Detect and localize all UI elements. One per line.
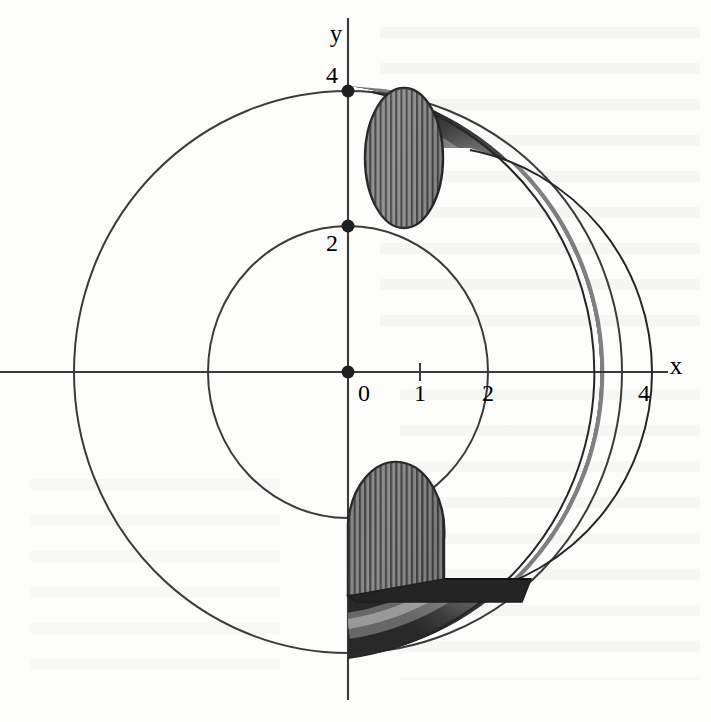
top-cross-section-shade <box>365 88 443 228</box>
x-tick-label-1: 1 <box>414 380 426 406</box>
x-axis-label: x <box>670 352 683 379</box>
axes-group <box>0 18 668 700</box>
x-tick-label-0: 0 <box>358 380 370 406</box>
point-y-4 <box>342 85 355 98</box>
diagram-canvas: x y 0 1 2 4 2 4 <box>0 0 711 722</box>
bottom-cross-section-shade <box>348 462 444 596</box>
x-tick-label-4: 4 <box>638 380 650 406</box>
x-tick-label-2: 2 <box>482 380 494 406</box>
point-origin <box>342 366 355 379</box>
y-axis-label: y <box>330 20 343 47</box>
y-tick-label-2: 2 <box>326 230 338 256</box>
y-tick-label-4: 4 <box>326 62 338 88</box>
top-cross-section <box>365 88 443 228</box>
point-y-2 <box>342 220 355 233</box>
torus-cross-section-figure: x y 0 1 2 4 2 4 <box>0 0 711 722</box>
